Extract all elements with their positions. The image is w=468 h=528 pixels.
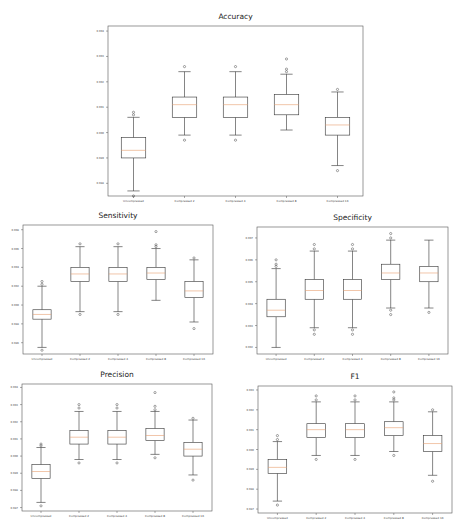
y-tick-label: 0.992 <box>12 285 20 288</box>
plot-frame <box>23 225 213 354</box>
outlier-marker <box>393 397 395 399</box>
outlier-marker <box>313 329 315 331</box>
y-tick-label: 0.996 <box>12 248 20 251</box>
x-tick-label: Uncompressed <box>266 357 287 361</box>
box-compressed-2 <box>71 243 89 316</box>
outlier-marker <box>116 403 118 405</box>
accuracy-chart-svg: Accuracy0.9880.9890.9900.9910.9920.9930.… <box>0 0 468 210</box>
chart-title: Specificity <box>333 213 372 222</box>
box-compressed-2 <box>70 403 88 464</box>
x-tick-label: Compressed 4 <box>107 514 127 518</box>
plot-frame <box>258 386 452 513</box>
outlier-marker <box>390 232 392 234</box>
x-tick-label: Uncompressed <box>31 514 52 518</box>
outlier-marker <box>79 243 81 245</box>
y-tick-label: 0.994 <box>97 30 105 33</box>
outlier-marker <box>79 313 81 315</box>
box-compressed-8 <box>146 391 164 458</box>
y-tick-label: 0.988 <box>11 489 19 492</box>
x-tick-label: Compressed 8 <box>381 357 401 361</box>
y-tick-label: 0.988 <box>97 182 105 185</box>
box-compressed-16 <box>325 88 349 171</box>
x-tick-label: Compressed 16 <box>418 357 440 361</box>
y-tick-label: 0.990 <box>97 132 105 135</box>
chart-title: F1 <box>350 372 359 381</box>
outlier-marker <box>285 58 287 60</box>
outlier-marker <box>234 65 236 67</box>
outlier-marker <box>41 349 43 351</box>
outlier-marker <box>192 479 194 481</box>
outlier-marker <box>285 71 287 73</box>
x-tick-label: Compressed 2 <box>174 199 194 203</box>
outlier-marker <box>351 329 353 331</box>
y-tick-label: 0.992 <box>247 409 255 412</box>
y-tick-label: 0.992 <box>97 81 105 84</box>
box-compressed-4 <box>346 395 365 461</box>
y-tick-label: 0.997 <box>246 237 254 240</box>
y-tick-label: 0.991 <box>97 106 105 109</box>
y-tick-label: 0.994 <box>12 266 20 269</box>
x-tick-label: Compressed 2 <box>306 516 326 520</box>
outlier-marker <box>285 68 287 70</box>
outlier-marker <box>432 480 434 482</box>
x-tick-label: Compressed 4 <box>225 199 245 203</box>
outlier-marker <box>193 257 195 259</box>
box-compressed-8 <box>382 232 400 315</box>
outlier-marker <box>192 417 194 419</box>
x-tick-label: Compressed 16 <box>327 199 349 203</box>
x-tick-label: Compressed 16 <box>182 514 204 518</box>
y-tick-label: 0.993 <box>97 55 105 58</box>
chart-title: Sensitivity <box>98 211 138 220</box>
outlier-marker <box>276 438 278 440</box>
y-tick-label: 0.993 <box>11 404 19 407</box>
x-tick-label: Compressed 2 <box>70 357 90 361</box>
x-tick-label: Compressed 4 <box>345 516 365 520</box>
outlier-marker <box>428 311 430 313</box>
x-tick-label: Uncompressed <box>267 516 288 520</box>
outlier-marker <box>78 403 80 405</box>
outlier-marker <box>336 170 338 172</box>
box-compressed-16 <box>420 240 438 313</box>
outlier-marker <box>276 435 278 437</box>
outlier-marker <box>117 243 119 245</box>
outlier-marker <box>78 462 80 464</box>
y-tick-label: 0.998 <box>12 229 20 232</box>
y-tick-label: 0.990 <box>247 449 255 452</box>
x-tick-label: Compressed 8 <box>276 199 296 203</box>
outlier-marker <box>336 88 338 90</box>
outlier-marker <box>154 391 156 393</box>
box-uncompressed <box>33 280 51 351</box>
outlier-marker <box>155 230 157 232</box>
x-tick-label: Compressed 8 <box>146 357 166 361</box>
outlier-marker <box>116 407 118 409</box>
box-compressed-8 <box>274 58 298 130</box>
box-uncompressed <box>121 111 145 197</box>
outlier-marker <box>393 391 395 393</box>
outlier-marker <box>132 111 134 113</box>
outlier-marker <box>40 445 42 447</box>
box-compressed-16 <box>185 257 203 330</box>
y-tick-label: 0.995 <box>246 281 254 284</box>
box-compressed-8 <box>147 230 165 300</box>
outlier-marker <box>132 114 134 116</box>
outlier-marker <box>276 504 278 506</box>
outlier-marker <box>390 313 392 315</box>
outlier-marker <box>315 399 317 401</box>
box-uncompressed <box>267 259 285 348</box>
y-tick-label: 0.986 <box>12 342 20 345</box>
y-tick-label: 0.987 <box>247 508 255 511</box>
x-tick-label: Compressed 16 <box>422 516 444 520</box>
y-tick-label: 0.996 <box>246 259 254 262</box>
outlier-marker <box>351 243 353 245</box>
box-compressed-16 <box>423 409 442 483</box>
outlier-marker <box>40 505 42 507</box>
outlier-marker <box>155 246 157 248</box>
outlier-marker <box>41 283 43 285</box>
outlier-marker <box>432 409 434 411</box>
box-compressed-8 <box>384 391 403 457</box>
outlier-marker <box>393 399 395 401</box>
x-tick-label: Uncompressed <box>32 357 53 361</box>
outlier-marker <box>155 244 157 246</box>
box-compressed-4 <box>108 403 126 464</box>
outlier-marker <box>313 243 315 245</box>
